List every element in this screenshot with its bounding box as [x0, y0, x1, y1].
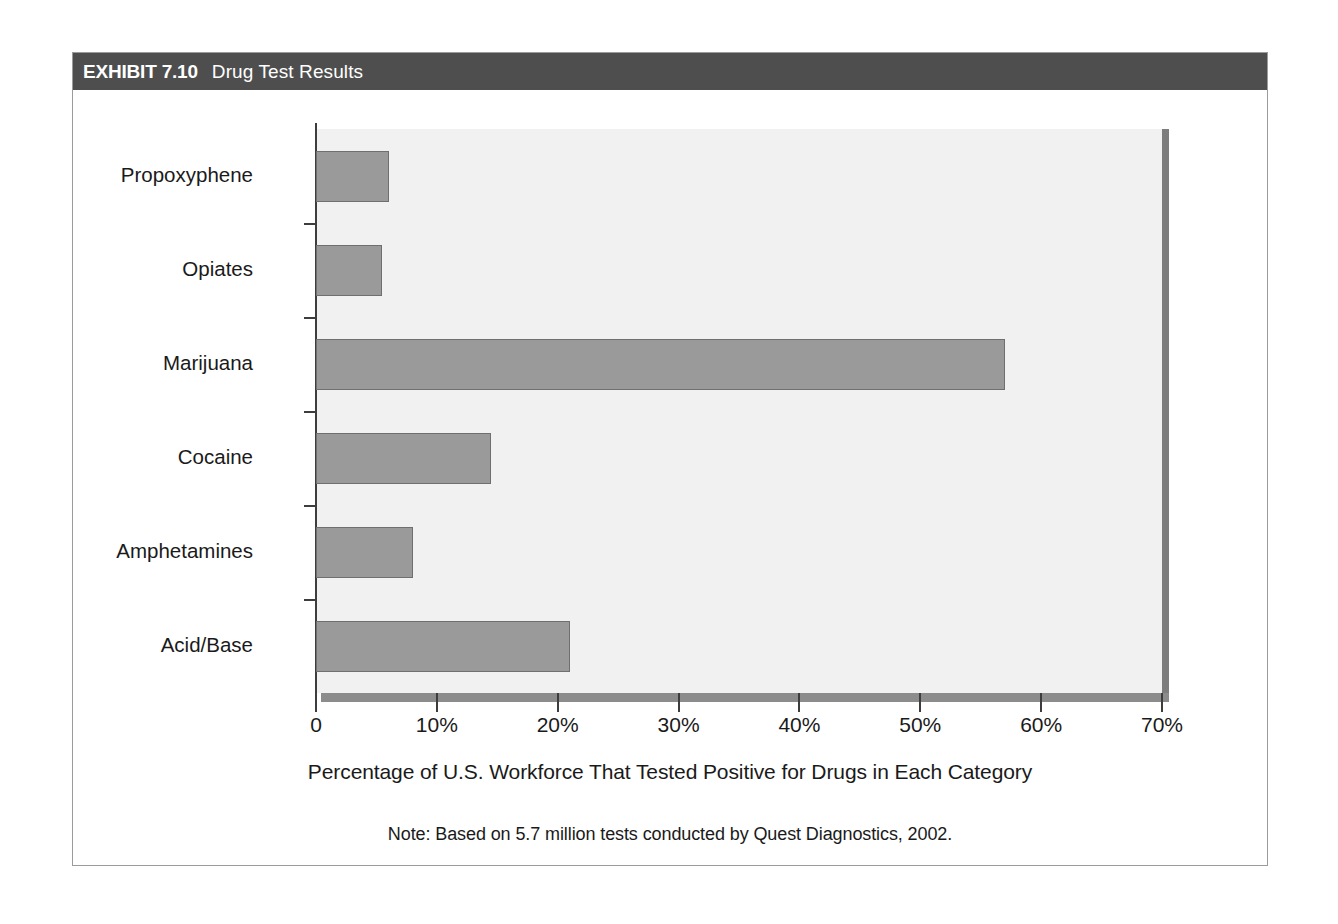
- y-axis-tick: [304, 505, 316, 507]
- x-axis-tick: [1040, 693, 1042, 712]
- x-axis-tick: [315, 693, 317, 712]
- y-axis-tick: [304, 317, 316, 319]
- x-axis-tick-label: 50%: [899, 714, 941, 735]
- x-axis-tick-label: 0: [310, 714, 322, 735]
- x-axis-tick-label: 20%: [537, 714, 579, 735]
- chart-note: Note: Based on 5.7 million tests conduct…: [73, 824, 1267, 845]
- category-label-cocaine: Cocaine: [178, 447, 253, 468]
- bar-amphetamines: [316, 527, 413, 578]
- y-axis-tick: [304, 411, 316, 413]
- chart-region: PropoxypheneOpiatesMarijuanaCocaineAmphe…: [73, 90, 1267, 867]
- exhibit-title: Drug Test Results: [212, 61, 363, 83]
- y-axis-tick: [304, 223, 316, 225]
- bar-cocaine: [316, 433, 491, 484]
- x-axis-tick: [1161, 693, 1163, 712]
- bar-acid-base: [316, 621, 570, 672]
- x-axis-tick: [919, 693, 921, 712]
- x-axis-tick: [798, 693, 800, 712]
- x-axis-tick-label: 70%: [1141, 714, 1183, 735]
- x-axis-tick-label: 10%: [416, 714, 458, 735]
- category-label-amphetamines: Amphetamines: [116, 541, 253, 562]
- exhibit-number: EXHIBIT 7.10: [83, 61, 198, 83]
- category-label-acid-base: Acid/Base: [161, 635, 253, 656]
- category-label-propoxyphene: Propoxyphene: [121, 165, 253, 186]
- x-axis-tick-label: 40%: [778, 714, 820, 735]
- y-axis-tick: [304, 599, 316, 601]
- exhibit-frame: EXHIBIT 7.10 Drug Test Results Propoxyph…: [72, 52, 1268, 866]
- x-axis-tick-label: 30%: [658, 714, 700, 735]
- x-axis-title: Percentage of U.S. Workforce That Tested…: [73, 760, 1267, 784]
- x-axis-tick: [436, 693, 438, 712]
- exhibit-header: EXHIBIT 7.10 Drug Test Results: [73, 53, 1267, 90]
- bar-marijuana: [316, 339, 1005, 390]
- x-axis-tick: [557, 693, 559, 712]
- x-axis-tick: [678, 693, 680, 712]
- category-label-opiates: Opiates: [182, 259, 253, 280]
- bar-propoxyphene: [316, 151, 389, 202]
- plot-right-edge-shadow: [1162, 129, 1169, 693]
- category-label-marijuana: Marijuana: [163, 353, 253, 374]
- bar-opiates: [316, 245, 382, 296]
- plot-background: [316, 129, 1169, 693]
- x-axis-tick-label: 60%: [1020, 714, 1062, 735]
